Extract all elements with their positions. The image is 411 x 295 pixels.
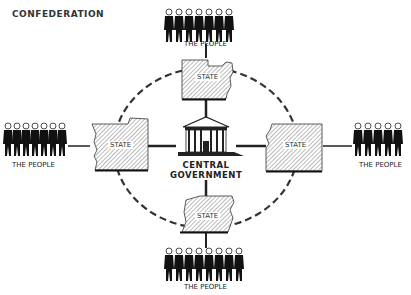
state-top-label: STATE bbox=[195, 73, 220, 81]
people-left-icon bbox=[3, 123, 67, 156]
people-top-label: THE PEOPLE bbox=[184, 40, 227, 48]
state-bottom-label: STATE bbox=[195, 212, 220, 220]
central-label-line2: GOVERNMENT bbox=[170, 170, 242, 180]
people-top-icon bbox=[164, 9, 234, 42]
state-right-label: STATE bbox=[283, 141, 308, 149]
people-bottom-label: THE PEOPLE bbox=[184, 283, 227, 291]
central-label-line1: CENTRAL bbox=[170, 160, 242, 170]
people-right-label: THE PEOPLE bbox=[359, 161, 402, 169]
people-right-icon bbox=[353, 123, 403, 156]
capitol-building-icon bbox=[178, 117, 244, 156]
people-bottom-icon bbox=[164, 248, 244, 281]
people-left-label: THE PEOPLE bbox=[12, 161, 55, 169]
state-left-label: STATE bbox=[108, 141, 133, 149]
central-government-label: CENTRAL GOVERNMENT bbox=[170, 160, 242, 180]
